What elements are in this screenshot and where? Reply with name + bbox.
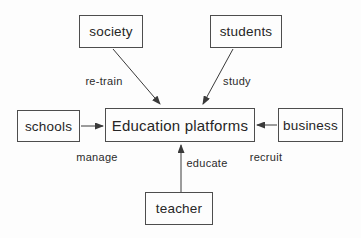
node-teacher: teacher bbox=[145, 192, 213, 225]
edge-label-study: study bbox=[223, 75, 251, 87]
node-students: students bbox=[210, 15, 282, 48]
edge-label-retrain: re-train bbox=[85, 75, 122, 87]
node-society: society bbox=[79, 15, 143, 48]
node-education-platforms: Education platforms bbox=[105, 108, 255, 142]
diagram-canvas: society students schools Education platf… bbox=[0, 0, 361, 238]
node-schools: schools bbox=[17, 110, 80, 142]
edge-label-educate: educate bbox=[186, 157, 227, 169]
edge-label-recruit: recruit bbox=[250, 151, 283, 163]
edge-label-manage: manage bbox=[76, 151, 118, 163]
node-business: business bbox=[278, 108, 343, 142]
